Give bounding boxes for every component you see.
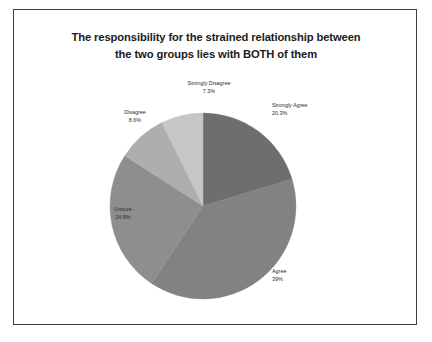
slide-frame: The responsibility for the strained rela… xyxy=(13,9,417,325)
slice-label-value: 7.3% xyxy=(171,88,247,96)
slice-label-strongly-agree: Strongly Agree 20.3% xyxy=(272,102,307,117)
slice-label-name: Strongly Agree xyxy=(272,102,307,110)
slice-label-unsure: Unsure 24.8% xyxy=(100,206,146,221)
slice-label-disagree: Disagree 8.6% xyxy=(112,109,158,124)
slice-label-name: Unsure xyxy=(100,206,146,214)
pie-chart: Strongly Agree 20.3% Agree 39% Unsure 24… xyxy=(14,10,418,326)
pie-chart-svg xyxy=(14,10,418,326)
slice-label-strongly-disagree: Strongly Disagree 7.3% xyxy=(171,80,247,95)
slice-label-name: Agree xyxy=(272,268,286,276)
slice-label-value: 24.8% xyxy=(100,214,146,222)
slice-label-value: 20.3% xyxy=(272,110,307,118)
slice-label-agree: Agree 39% xyxy=(272,268,286,283)
slice-label-value: 8.6% xyxy=(112,117,158,125)
slice-label-name: Disagree xyxy=(112,109,158,117)
slice-label-value: 39% xyxy=(272,276,286,284)
slice-label-name: Strongly Disagree xyxy=(171,80,247,88)
